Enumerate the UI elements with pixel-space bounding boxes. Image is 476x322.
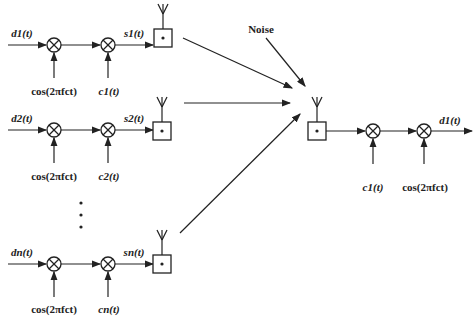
output-label-1: s1(t)	[124, 27, 144, 39]
carrier-label-1: cos(2πfct)	[31, 85, 77, 97]
receiver-output-label: d1(t)	[439, 114, 460, 126]
code-label-n: cn(t)	[98, 303, 119, 315]
input-label-1: d1(t)	[11, 27, 32, 39]
mixer-icon	[101, 123, 115, 137]
receiver-carrier-label: cos(2πfct)	[402, 181, 448, 193]
antenna-icon	[153, 97, 171, 140]
mixer-icon	[101, 257, 115, 271]
transmitter-2	[8, 130, 153, 163]
mixer-icon	[47, 38, 61, 52]
code-label-2: c2(t)	[99, 170, 120, 182]
diagram-graphics	[0, 0, 476, 322]
ellipsis-dots	[79, 201, 82, 228]
input-label-n: dn(t)	[11, 246, 33, 258]
carrier-label-2: cos(2πfct)	[31, 170, 77, 182]
antenna-icon	[154, 4, 172, 47]
code-label-1: c1(t)	[99, 85, 120, 97]
input-label-2: d2(t)	[11, 112, 32, 124]
channel-paths	[180, 38, 305, 233]
receiver-code-label: c1(t)	[363, 181, 384, 193]
output-label-n: sn(t)	[124, 246, 145, 258]
mixer-icon	[47, 257, 61, 271]
mixer-icon	[47, 123, 61, 137]
antenna-icon	[153, 230, 171, 273]
carrier-label-n: cos(2πfct)	[31, 303, 77, 315]
transmitter-n	[8, 264, 153, 297]
cdma-diagram: d1(t) cos(2πfct) c1(t) s1(t) d2(t) cos(2…	[0, 0, 476, 322]
receiver	[326, 131, 472, 164]
output-label-2: s2(t)	[124, 112, 144, 124]
mixer-icon	[366, 124, 380, 138]
receiver-antenna-icon	[308, 97, 326, 140]
mixer-icon	[417, 124, 431, 138]
noise-label: Noise	[248, 23, 274, 35]
mixer-icon	[101, 38, 115, 52]
transmitter-1	[8, 45, 153, 78]
